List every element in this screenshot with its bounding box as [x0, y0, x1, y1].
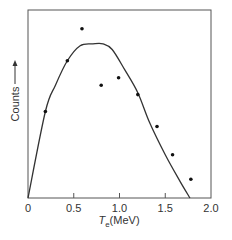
theory-curve: [28, 43, 190, 198]
data-point: [80, 27, 84, 31]
x-axis-tick-labels: 00.51.01.52.0: [25, 202, 219, 214]
data-point: [136, 93, 140, 97]
x-axis-ticks: [74, 193, 166, 198]
x-tick-label: 1.0: [112, 202, 127, 214]
x-axis-label: Te(MeV): [98, 214, 139, 229]
x-tick-label: 0: [25, 202, 31, 214]
chart: 00.51.01.52.0 Te(MeV) Counts: [0, 0, 232, 240]
data-point: [44, 110, 48, 114]
data-point: [189, 177, 193, 181]
y-axis-label: Counts: [9, 86, 21, 121]
y-axis-arrow-icon: [13, 60, 18, 66]
data-point: [117, 76, 121, 80]
data-point: [99, 83, 103, 87]
data-point: [155, 125, 159, 129]
x-tick-label: 2.0: [203, 202, 218, 214]
data-point: [171, 153, 175, 157]
plot-frame: [28, 10, 211, 198]
x-tick-label: 0.5: [66, 202, 81, 214]
x-tick-label: 1.5: [158, 202, 173, 214]
data-point: [66, 59, 70, 63]
x-axis-label-unit: (MeV): [110, 214, 140, 226]
data-points: [44, 27, 193, 181]
y-axis-label-group: Counts: [9, 60, 21, 121]
